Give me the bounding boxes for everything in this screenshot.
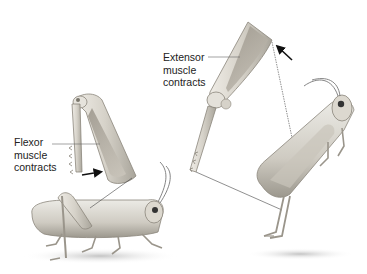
- grasshopper-jumping: [246, 79, 354, 260]
- grasshopper-leg-diagram: Flexor muscle contracts Extensor muscle …: [0, 0, 367, 274]
- flexed-leg-closeup: [52, 94, 136, 183]
- extensor-label: Extensor muscle contracts: [163, 51, 206, 89]
- extensor-label-line-1: Extensor: [163, 51, 206, 64]
- grasshopper-standing: [22, 162, 178, 264]
- extensor-label-line-3: contracts: [163, 76, 206, 89]
- flexor-label-line-2: muscle: [14, 149, 57, 162]
- flexor-label: Flexor muscle contracts: [14, 136, 57, 174]
- flexor-label-line-1: Flexor: [14, 136, 57, 149]
- extensor-label-line-2: muscle: [163, 64, 206, 77]
- flexor-label-line-3: contracts: [14, 161, 57, 174]
